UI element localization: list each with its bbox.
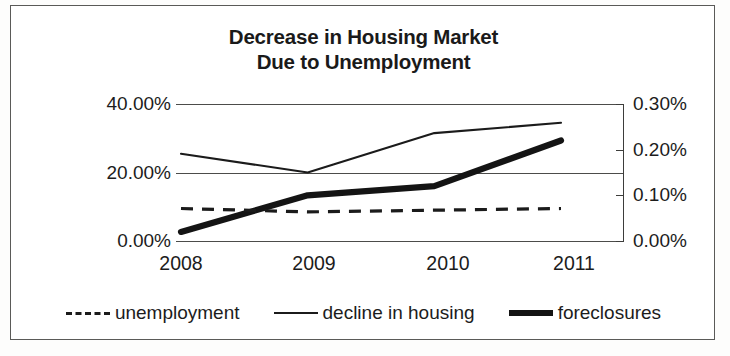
right-tick-label-0-20: 0.20%	[633, 139, 730, 161]
chart-legend: unemployment decline in housing foreclos…	[11, 302, 716, 324]
legend-swatch-dashed-icon	[66, 312, 110, 315]
legend-label-decline-in-housing: decline in housing	[323, 302, 475, 324]
x-tick-label-2010: 2010	[403, 252, 493, 275]
x-tick-label-2008: 2008	[136, 252, 226, 275]
right-tick-label-0-00: 0.00%	[633, 230, 730, 252]
legend-item-unemployment[interactable]: unemployment	[66, 302, 240, 324]
x-tick-label-2011: 2011	[529, 252, 619, 275]
legend-swatch-thick-line-icon	[509, 310, 553, 316]
chart-frame: Decrease in Housing Market Due to Unempl…	[10, 5, 715, 340]
legend-label-foreclosures: foreclosures	[558, 302, 662, 324]
right-axis-labels: 0.30% 0.20% 0.10% 0.00%	[11, 6, 716, 341]
legend-label-unemployment: unemployment	[115, 302, 240, 324]
right-tick-label-0-10: 0.10%	[633, 184, 730, 206]
legend-item-foreclosures[interactable]: foreclosures	[509, 302, 662, 324]
x-tick-label-2009: 2009	[269, 252, 359, 275]
x-axis-labels: 2008 2009 2010 2011	[176, 252, 623, 282]
legend-swatch-thin-line-icon	[274, 312, 318, 314]
right-tick-label-0-30: 0.30%	[633, 93, 730, 115]
legend-item-decline-in-housing[interactable]: decline in housing	[274, 302, 475, 324]
chart-figure: Decrease in Housing Market Due to Unempl…	[0, 0, 730, 356]
